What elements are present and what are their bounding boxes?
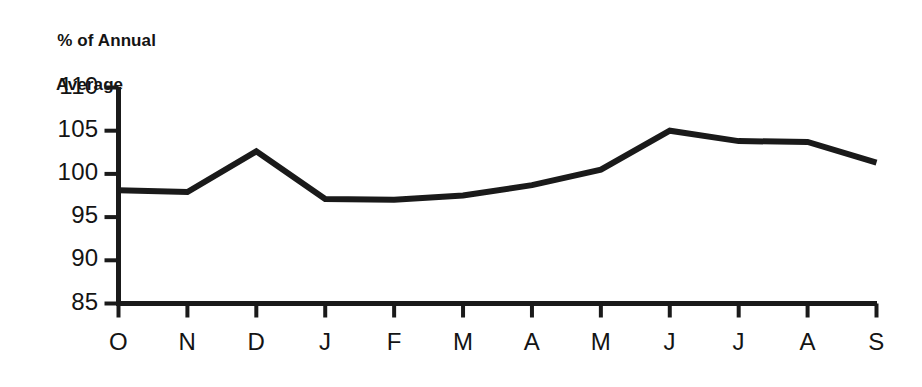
y-axis-tick-label: 85 <box>37 288 99 316</box>
x-axis-tick-label: F <box>374 328 414 356</box>
x-axis-tick-label: J <box>719 328 759 356</box>
x-axis-tick-label: M <box>443 328 483 356</box>
y-axis-tick-label: 105 <box>37 115 99 143</box>
x-axis-tick-label: J <box>650 328 690 356</box>
x-axis-tick-label: A <box>512 328 552 356</box>
y-axis-tick-label: 90 <box>37 244 99 272</box>
x-axis-tick-label: A <box>788 328 828 356</box>
x-axis-tick-label: N <box>167 328 207 356</box>
x-axis-tick-label: D <box>236 328 276 356</box>
y-axis-tick-label: 100 <box>37 158 99 186</box>
x-axis-tick-label: O <box>99 328 139 356</box>
y-axis-tick-label: 110 <box>37 72 99 100</box>
data-series-line <box>119 131 877 200</box>
x-axis-tick-label: M <box>581 328 621 356</box>
y-axis-tick-label: 95 <box>37 201 99 229</box>
line-chart: % of Annual Average 110105100959085 ONDJ… <box>0 0 922 387</box>
x-axis-tick-label: S <box>857 328 897 356</box>
axes <box>116 87 877 304</box>
x-axis-tick-label: J <box>305 328 345 356</box>
